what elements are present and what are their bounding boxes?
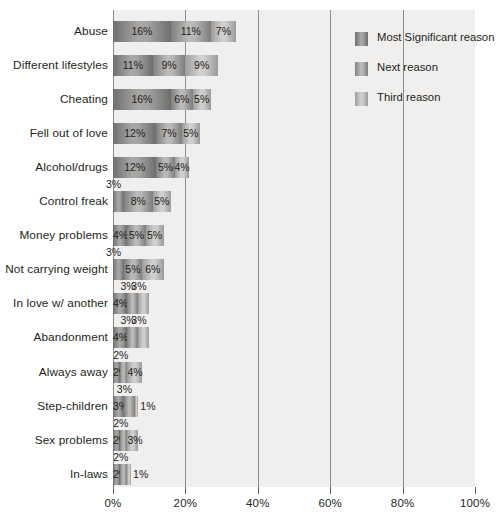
bar-segment: 3% <box>138 327 149 348</box>
bar-row: In-laws2%2%1% <box>0 464 500 485</box>
bar-row: Money problems4%5%5% <box>0 225 500 246</box>
bar-segment: 5% <box>153 191 171 212</box>
category-label: Money problems <box>19 228 108 242</box>
bar-segment: 12% <box>113 157 156 178</box>
legend-label: Third reason <box>377 91 440 103</box>
bar-segment: 16% <box>113 89 171 110</box>
bar-row: Abandonment4%3%3% <box>0 327 500 348</box>
segment-value-label: 1% <box>133 464 157 485</box>
bar-segment: 2% <box>120 464 127 485</box>
segment-value-label: 12% <box>113 157 156 178</box>
bar-segment: 4% <box>127 362 141 383</box>
bar-segment: 7% <box>156 123 181 144</box>
category-label: Sex problems <box>35 433 108 447</box>
segment-value-label: 2% <box>113 464 120 485</box>
x-tick-label-40: 40% <box>246 497 270 509</box>
segment-value-label: 5% <box>182 123 200 144</box>
bar-segment: 5% <box>124 259 142 280</box>
segment-value-label: 3% <box>106 178 136 190</box>
bar-segment: 3% <box>113 396 124 417</box>
segment-value-label: 4% <box>127 362 141 383</box>
bar-segment: 6% <box>142 259 164 280</box>
segment-value-label: 4% <box>175 157 189 178</box>
bar-row: Alcohol/drugs12%5%4% <box>0 157 500 178</box>
segment-value-label: 7% <box>156 123 181 144</box>
bar-segment: 4% <box>113 327 127 348</box>
bar-segment: 7% <box>211 21 236 42</box>
segment-value-label: 7% <box>211 21 236 42</box>
category-label: In love w/ another <box>13 296 108 310</box>
x-tick-80 <box>403 487 404 494</box>
category-label: Always away <box>39 365 108 379</box>
segment-value-label: 5% <box>146 225 164 246</box>
x-tick-60 <box>330 487 331 494</box>
bar-row: Fell out of love12%7%5% <box>0 123 500 144</box>
legend-swatch-icon <box>355 62 368 76</box>
bar-segment: 5% <box>182 123 200 144</box>
segment-value-label: 8% <box>124 191 153 212</box>
bar-segment: 3% <box>124 396 135 417</box>
bar-segment: 8% <box>124 191 153 212</box>
legend-swatch-icon <box>355 32 368 46</box>
bar-segment: 2% <box>113 430 120 451</box>
bar-segment: 9% <box>153 55 186 76</box>
segment-value-label: 4% <box>113 225 127 246</box>
segment-value-label: 2% <box>113 451 143 463</box>
bar-segment: 2% <box>120 430 127 451</box>
segment-value-label: 3% <box>113 396 124 417</box>
x-tick-label-80: 80% <box>391 497 415 509</box>
segment-value-label: 5% <box>127 225 145 246</box>
segment-value-label: 16% <box>113 89 171 110</box>
bar-row: Always away2%2%4% <box>0 362 500 383</box>
segment-value-label: 3% <box>106 246 136 258</box>
bar-row: Sex problems2%2%3% <box>0 430 500 451</box>
bar-segment: 1% <box>127 464 131 485</box>
x-tick-40 <box>258 487 259 494</box>
bar-segment: 16% <box>113 21 171 42</box>
bar-segment: 3% <box>127 327 138 348</box>
segment-value-label: 5% <box>193 89 211 110</box>
category-label: In-laws <box>70 467 108 481</box>
segment-value-label: 4% <box>113 293 127 314</box>
segment-value-label: 6% <box>171 89 193 110</box>
bar-row: In love w/ another4%3%3% <box>0 293 500 314</box>
category-label: Control freak <box>39 194 108 208</box>
category-label: Fell out of love <box>30 126 108 140</box>
bar-segment: 4% <box>113 293 127 314</box>
segment-value-label: 3% <box>131 314 161 326</box>
bar-segment: 1% <box>135 396 139 417</box>
bar-segment: 3% <box>127 430 138 451</box>
segment-value-label: 3% <box>117 383 147 395</box>
bar-row: Control freak3%8%5% <box>0 191 500 212</box>
bar-segment: 2% <box>113 464 120 485</box>
legend-label: Most Significant reason <box>377 31 494 43</box>
x-tick-label-60: 60% <box>318 497 342 509</box>
category-label: Step-children <box>37 399 108 413</box>
bar-segment: 3% <box>113 259 124 280</box>
segment-value-label: 2% <box>113 349 143 361</box>
bar-segment: 4% <box>175 157 189 178</box>
bar-segment: 6% <box>171 89 193 110</box>
category-label: Cheating <box>60 92 108 106</box>
segment-value-label: 3% <box>127 430 138 451</box>
x-tick-label-0: 0% <box>104 497 121 509</box>
segment-value-label: 16% <box>113 21 171 42</box>
category-label: Different lifestyles <box>13 58 108 72</box>
bar-segment: 5% <box>146 225 164 246</box>
bar-segment: 11% <box>171 21 211 42</box>
x-tick-100 <box>475 487 476 494</box>
bar-row: Not carrying weight3%5%6% <box>0 259 500 280</box>
bar-segment: 5% <box>156 157 174 178</box>
bar-segment: 4% <box>113 225 127 246</box>
segment-value-label: 5% <box>124 259 142 280</box>
x-tick-0 <box>113 487 114 494</box>
legend-swatch-icon <box>355 92 368 106</box>
segment-value-label: 1% <box>140 396 164 417</box>
bar-segment: 2% <box>113 362 120 383</box>
x-tick-label-100: 100% <box>460 497 490 509</box>
bar-segment: 5% <box>127 225 145 246</box>
x-tick-20 <box>185 487 186 494</box>
x-tick-label-20: 20% <box>174 497 198 509</box>
segment-value-label: 6% <box>142 259 164 280</box>
segment-value-label: 2% <box>113 430 120 451</box>
